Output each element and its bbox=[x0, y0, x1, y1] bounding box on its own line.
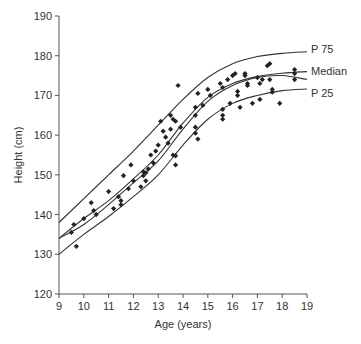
y-tick-label: 140 bbox=[34, 209, 52, 221]
data-point bbox=[106, 189, 111, 194]
x-tick-label: 14 bbox=[177, 300, 189, 312]
data-point bbox=[148, 152, 153, 157]
x-tick-label: 19 bbox=[301, 300, 313, 312]
data-point bbox=[121, 173, 126, 178]
x-tick-label: 12 bbox=[127, 300, 139, 312]
data-point bbox=[173, 162, 178, 167]
curve-p25 bbox=[59, 89, 307, 254]
data-point bbox=[225, 77, 230, 82]
data-point bbox=[161, 129, 166, 134]
data-point bbox=[235, 89, 240, 94]
x-tick-label: 17 bbox=[251, 300, 263, 312]
label-p75: P 75 bbox=[311, 43, 333, 55]
data-point bbox=[131, 178, 136, 183]
data-point bbox=[193, 131, 198, 136]
label-median: Median bbox=[311, 65, 347, 77]
data-point bbox=[277, 101, 282, 106]
data-point bbox=[257, 81, 262, 86]
data-point bbox=[205, 87, 210, 92]
x-axis-title: Age (years) bbox=[155, 318, 212, 330]
x-tick-label: 18 bbox=[276, 300, 288, 312]
y-tick-label: 190 bbox=[34, 10, 52, 22]
data-point bbox=[270, 90, 275, 95]
data-point bbox=[267, 77, 272, 82]
data-point bbox=[111, 206, 116, 211]
y-tick-label: 130 bbox=[34, 248, 52, 260]
x-tick-label: 13 bbox=[152, 300, 164, 312]
data-point bbox=[220, 117, 225, 122]
data-point bbox=[126, 186, 131, 191]
y-tick-label: 160 bbox=[34, 129, 52, 141]
label-p25: P 25 bbox=[311, 87, 333, 99]
y-tick-label: 120 bbox=[34, 288, 52, 300]
data-point bbox=[218, 81, 223, 86]
data-point bbox=[168, 127, 173, 132]
data-point bbox=[74, 244, 79, 249]
x-tick-label: 11 bbox=[103, 300, 114, 312]
data-point bbox=[193, 105, 198, 110]
data-point bbox=[158, 119, 163, 124]
data-point bbox=[257, 97, 262, 102]
data-point bbox=[71, 222, 76, 227]
data-point bbox=[175, 83, 180, 88]
data-point bbox=[118, 198, 123, 203]
x-axis: 910111213141516171819 bbox=[56, 294, 313, 312]
data-point bbox=[128, 162, 133, 167]
data-point bbox=[237, 105, 242, 110]
x-tick-label: 10 bbox=[78, 300, 90, 312]
data-point bbox=[89, 200, 94, 205]
y-axis-title: Height (cm) bbox=[12, 127, 24, 184]
data-point bbox=[153, 148, 158, 153]
y-tick-label: 180 bbox=[34, 50, 52, 62]
y-tick-label: 170 bbox=[34, 89, 52, 101]
y-axis: 120130140150160170180190 bbox=[34, 10, 59, 300]
data-point bbox=[195, 91, 200, 96]
x-tick-label: 16 bbox=[226, 300, 238, 312]
data-point bbox=[156, 142, 161, 147]
height-by-age-chart: 120130140150160170180190 910111213141516… bbox=[0, 0, 361, 344]
y-tick-label: 150 bbox=[34, 169, 52, 181]
data-point bbox=[143, 178, 148, 183]
x-tick-label: 9 bbox=[56, 300, 62, 312]
data-point bbox=[250, 101, 255, 106]
x-tick-label: 15 bbox=[202, 300, 214, 312]
data-point bbox=[195, 137, 200, 142]
data-point bbox=[163, 135, 168, 140]
data-point bbox=[260, 77, 265, 82]
